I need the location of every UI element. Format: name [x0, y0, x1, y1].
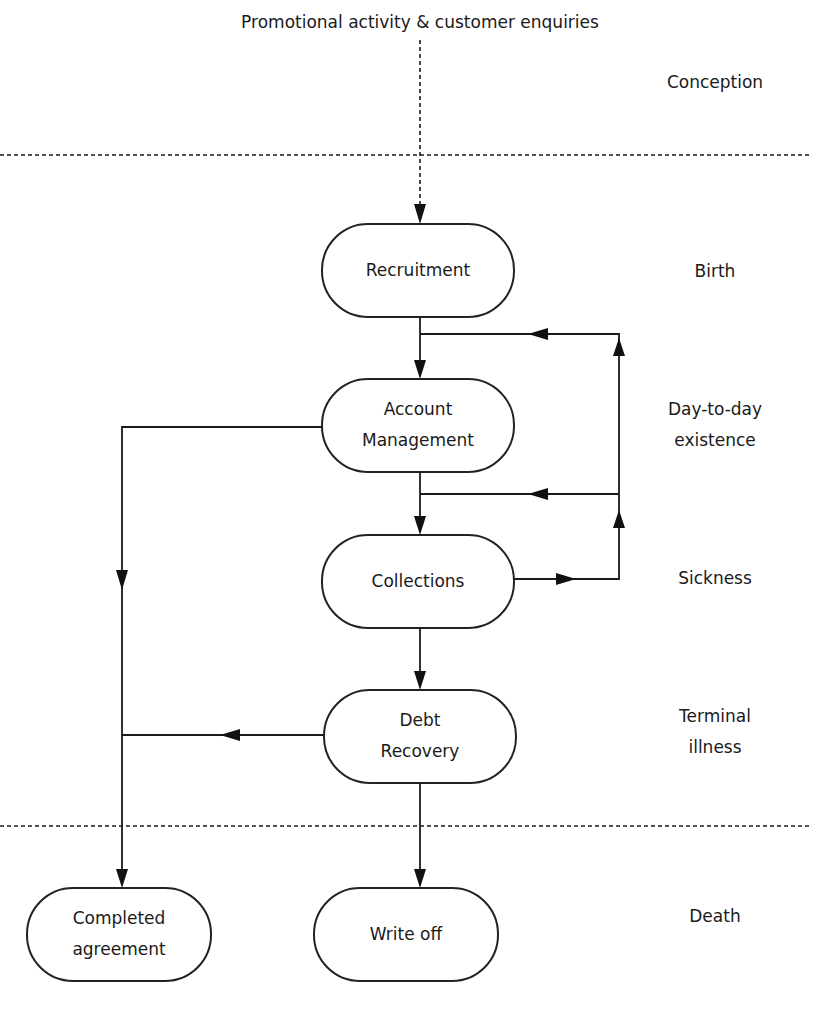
- node-collections-label: Collections: [372, 571, 465, 591]
- stage-day-to-day-line2: existence: [674, 430, 756, 450]
- arrowhead-icon: [528, 328, 548, 340]
- node-debt-recovery-line1: Debt: [399, 710, 440, 730]
- stage-conception: Conception: [667, 72, 763, 92]
- node-completed-agreement-line1: Completed: [73, 908, 166, 928]
- node-account-management: [322, 379, 514, 472]
- arrowhead-icon: [414, 516, 426, 535]
- node-completed-agreement: [27, 888, 211, 981]
- stage-terminal-line2: illness: [688, 737, 741, 757]
- stage-death: Death: [689, 906, 740, 926]
- node-write-off-label: Write off: [370, 924, 444, 944]
- arrowhead-icon: [613, 510, 625, 528]
- customer-lifecycle-diagram: Promotional activity & customer enquirie…: [0, 0, 830, 1012]
- arrowhead-icon: [414, 204, 426, 224]
- edge-account-to-completed: [122, 427, 322, 879]
- node-account-management-line2: Management: [362, 430, 474, 450]
- arrowhead-icon: [414, 360, 426, 379]
- node-completed-agreement-line2: agreement: [72, 939, 166, 959]
- arrowhead-icon: [414, 869, 426, 888]
- stage-sickness: Sickness: [678, 568, 752, 588]
- arrowhead-icon: [414, 671, 426, 690]
- stage-day-to-day-line1: Day-to-day: [668, 399, 762, 419]
- arrowhead-icon: [116, 869, 128, 888]
- arrowhead-icon: [556, 573, 576, 585]
- arrowhead-icon: [220, 729, 240, 741]
- stage-birth: Birth: [695, 261, 736, 281]
- source-label: Promotional activity & customer enquirie…: [241, 12, 599, 32]
- node-debt-recovery-line2: Recovery: [381, 741, 460, 761]
- node-recruitment-label: Recruitment: [366, 260, 471, 280]
- arrowhead-icon: [613, 338, 625, 356]
- arrowhead-icon: [528, 488, 548, 500]
- node-debt-recovery: [324, 690, 516, 783]
- arrowhead-icon: [116, 570, 128, 590]
- node-account-management-line1: Account: [384, 399, 453, 419]
- stage-terminal-line1: Terminal: [678, 706, 751, 726]
